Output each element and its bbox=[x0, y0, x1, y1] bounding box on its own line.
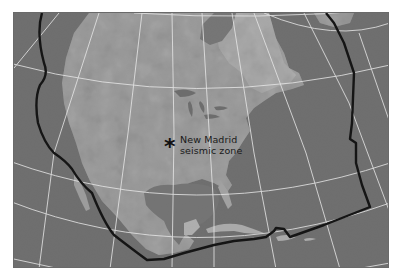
label-line-1: New Madrid bbox=[180, 134, 242, 145]
new-madrid-label: New Madrid seismic zone bbox=[180, 134, 242, 156]
asterisk-marker-icon: * bbox=[164, 136, 176, 158]
label-line-2: seismic zone bbox=[180, 145, 242, 156]
